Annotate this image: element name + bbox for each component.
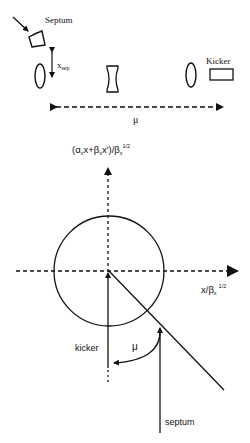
septum-magnet-icon — [29, 31, 45, 47]
phase-space-plot: (αxx+βxx')/βx1/2 x/βx1/2 kicker septum μ — [16, 143, 237, 433]
defocusing-quadrupole-icon — [107, 66, 118, 92]
lattice-schematic: Septum xsep Kicker μ — [13, 15, 233, 125]
kicker-label: Kicker — [206, 56, 231, 66]
septum-vector-label: septum — [165, 417, 195, 427]
incoming-beam-arrow — [13, 17, 28, 31]
focusing-quadrupole-icon — [35, 64, 45, 88]
phase-advance-label: μ — [133, 114, 138, 125]
xsep-label: xsep — [57, 60, 70, 71]
injection-diagram: Septum xsep Kicker μ (αxx+βxx')/βx1/2 x/… — [0, 0, 250, 443]
vertical-axis-label: (αxx+βxx')/βx1/2 — [72, 143, 130, 156]
kicker-vector-label: kicker — [75, 343, 99, 353]
focusing-quadrupole-2-icon — [186, 63, 196, 87]
phase-rotation-label: μ — [132, 341, 138, 352]
kicker-magnet-icon — [210, 69, 233, 80]
septum-label: Septum — [45, 15, 73, 25]
horizontal-axis-label: x/βx1/2 — [201, 283, 226, 296]
